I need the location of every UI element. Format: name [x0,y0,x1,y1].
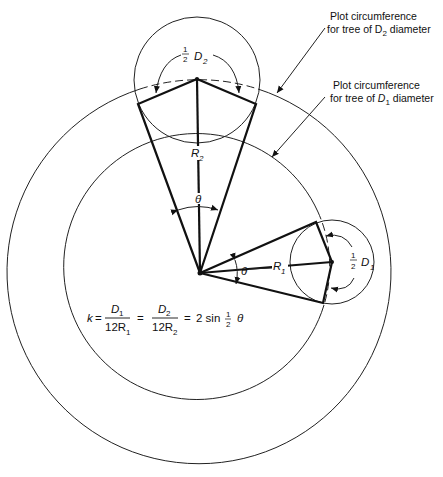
svg-text:12R: 12R [152,321,173,333]
formula: k = D 1 12R 1 = D 2 12R 2 = 2 sin 1 2 θ [87,303,244,337]
svg-text:1: 1 [126,328,131,337]
radius-r2 [197,79,200,273]
formula-eq-3: = [184,312,191,324]
half-d1-arrow-bottom [331,278,354,289]
diagram-canvas: Plot circumference for tree of D2 diamet… [0,0,443,477]
kite-d1-outline [200,222,332,303]
half-d2-label: 1 2 D 2 [182,45,208,66]
inner-plot-circle-dashed-arc [318,212,330,305]
svg-text:12R: 12R [105,321,126,333]
svg-text:2: 2 [166,309,171,318]
callout-d1-line1: Plot circumference [333,79,420,91]
svg-text:2: 2 [173,328,178,337]
svg-text:1: 1 [370,263,374,272]
half-d1-arrow-top [326,235,352,247]
svg-text:1: 1 [281,267,285,276]
half-d1-label: 1 2 D 1 [350,251,374,272]
formula-rhs: 2 sin [196,312,220,324]
plot-center-point [198,271,203,276]
svg-text:1: 1 [351,251,356,260]
svg-text:D: D [194,50,202,62]
callout-d2-line2: for tree of D2 diameter [327,23,431,38]
theta-label-d2: θ [195,193,202,205]
svg-text:2: 2 [226,320,231,329]
svg-text:2: 2 [202,57,208,66]
callout-d2-leader [277,28,325,93]
callout-d1-line2: for tree of D1 diameter [330,92,434,107]
formula-eq-1: = [95,312,102,324]
svg-text:1: 1 [226,310,231,319]
svg-text:2: 2 [198,154,204,163]
svg-text:θ: θ [237,312,244,324]
svg-text:1: 1 [119,309,124,318]
svg-text:1: 1 [183,45,188,54]
svg-text:D: D [361,256,369,268]
callout-d1-leader [272,97,325,157]
formula-eq-2: = [137,312,144,324]
formula-k: k [87,312,94,324]
theta-label-d1: θ [241,265,248,277]
svg-text:2: 2 [351,262,356,271]
apex-d2-point [195,77,199,81]
svg-text:2: 2 [183,55,188,64]
callout-d2-line1: Plot circumference [330,10,417,22]
apex-d1-point [330,260,334,264]
theta-arc-d1 [235,260,237,284]
